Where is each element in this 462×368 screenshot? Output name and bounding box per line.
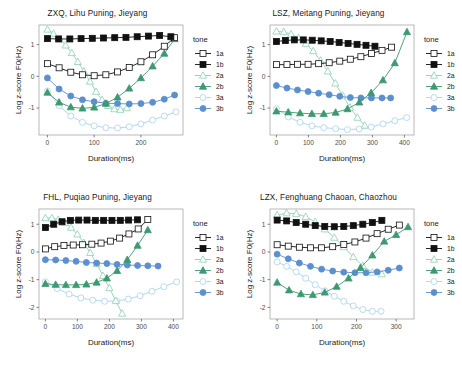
legend-marker-filled-square-icon <box>193 59 213 70</box>
legend-marker-open-circle-icon <box>424 92 444 103</box>
svg-text:400: 400 <box>168 323 179 330</box>
legend-marker-open-triangle-icon <box>193 70 213 81</box>
legend-item-1b[interactable]: 1b <box>193 59 224 70</box>
legend-marker-open-circle-icon <box>424 276 444 287</box>
legend-item-1b[interactable]: 1b <box>424 59 455 70</box>
svg-text:0: 0 <box>44 323 48 330</box>
legend-label: 1a <box>447 234 455 241</box>
svg-text:200: 200 <box>135 139 146 146</box>
legend-2: tone1a1b2a2b3a3b <box>424 35 455 114</box>
legend-title: tone <box>424 219 455 228</box>
legend-label: 2a <box>216 72 224 79</box>
legend-label: 3a <box>447 278 455 285</box>
svg-text:1: 1 <box>31 221 35 228</box>
legend-item-1b[interactable]: 1b <box>193 243 224 254</box>
svg-text:-1: -1 <box>29 104 35 111</box>
legend-marker-filled-circle-icon <box>424 103 444 114</box>
svg-text:1: 1 <box>262 221 266 228</box>
legend-marker-filled-square-icon <box>424 59 444 70</box>
svg-text:300: 300 <box>367 139 378 146</box>
figure-panel-grid: ZXQ, Lihu Puning, Jieyang 010020010-1 to… <box>0 0 462 368</box>
y-axis-title: Log z-score F0(Hz) <box>245 25 254 135</box>
legend-marker-open-triangle-icon <box>424 254 444 265</box>
svg-text:0: 0 <box>31 73 35 80</box>
legend-item-2a[interactable]: 2a <box>424 254 455 265</box>
legend-marker-filled-triangle-icon <box>424 81 444 92</box>
legend-item-2b[interactable]: 2b <box>424 81 455 92</box>
legend-item-2a[interactable]: 2a <box>424 70 455 81</box>
legend-item-2a[interactable]: 2a <box>193 254 224 265</box>
chart-panel-1: ZXQ, Lihu Puning, Jieyang 010020010-1 to… <box>0 0 231 184</box>
legend-marker-filled-triangle-icon <box>193 265 213 276</box>
legend-label: 3a <box>216 94 224 101</box>
legend-title: tone <box>193 35 224 44</box>
svg-text:0: 0 <box>275 139 279 146</box>
svg-text:0: 0 <box>262 73 266 80</box>
svg-text:200: 200 <box>335 139 346 146</box>
legend-marker-open-square-icon <box>424 232 444 243</box>
legend-label: 1b <box>447 61 455 68</box>
legend-label: 2a <box>447 72 455 79</box>
legend-title: tone <box>424 35 455 44</box>
legend-marker-open-square-icon <box>193 232 213 243</box>
svg-text:100: 100 <box>311 323 322 330</box>
legend-marker-open-circle-icon <box>193 92 213 103</box>
legend-item-3b[interactable]: 3b <box>424 287 455 298</box>
y-axis-title: Log z-score F0(Hz) <box>14 25 23 135</box>
legend-3: tone1a1b2a2b3a3b <box>193 219 224 298</box>
svg-text:100: 100 <box>303 139 314 146</box>
legend-item-2b[interactable]: 2b <box>193 81 224 92</box>
legend-1: tone1a1b2a2b3a3b <box>193 35 224 114</box>
legend-item-1b[interactable]: 1b <box>424 243 455 254</box>
chart-panel-4: LZX, Fenghuang Chaoan, Chaozhou 01002003… <box>231 184 462 368</box>
legend-marker-filled-triangle-icon <box>424 265 444 276</box>
legend-title: tone <box>193 219 224 228</box>
legend-item-1a[interactable]: 1a <box>193 48 224 59</box>
legend-item-1a[interactable]: 1a <box>424 232 455 243</box>
chart-panel-2: LSZ, Meitang Puning, Jieyang 01002003004… <box>231 0 462 184</box>
legend-item-1a[interactable]: 1a <box>193 232 224 243</box>
legend-item-3a[interactable]: 3a <box>424 276 455 287</box>
legend-item-2a[interactable]: 2a <box>193 70 224 81</box>
y-axis-title: Log z-score F0(Hz) <box>245 209 254 319</box>
legend-item-1a[interactable]: 1a <box>424 48 455 59</box>
legend-4: tone1a1b2a2b3a3b <box>424 219 455 298</box>
legend-marker-filled-square-icon <box>193 243 213 254</box>
legend-marker-open-triangle-icon <box>424 70 444 81</box>
legend-label: 2b <box>447 267 455 274</box>
svg-text:100: 100 <box>72 323 83 330</box>
legend-item-3a[interactable]: 3a <box>193 276 224 287</box>
svg-text:-1: -1 <box>260 276 266 283</box>
x-axis-title: Duration(ms) <box>270 338 414 347</box>
svg-text:300: 300 <box>136 323 147 330</box>
legend-marker-open-circle-icon <box>193 276 213 287</box>
x-axis-title: Duration(ms) <box>39 154 183 163</box>
legend-marker-open-triangle-icon <box>193 254 213 265</box>
legend-marker-open-square-icon <box>193 48 213 59</box>
legend-item-3a[interactable]: 3a <box>424 92 455 103</box>
x-axis-title: Duration(ms) <box>270 154 414 163</box>
legend-marker-filled-triangle-icon <box>193 81 213 92</box>
legend-label: 1a <box>216 234 224 241</box>
svg-text:0: 0 <box>275 323 279 330</box>
svg-text:-2: -2 <box>260 304 266 311</box>
legend-item-3b[interactable]: 3b <box>193 103 224 114</box>
chart-panel-3: FHL, Puqiao Puning, Jieyang 010020030040… <box>0 184 231 368</box>
legend-item-2b[interactable]: 2b <box>424 265 455 276</box>
legend-item-3b[interactable]: 3b <box>193 287 224 298</box>
legend-item-3b[interactable]: 3b <box>424 103 455 114</box>
legend-item-3a[interactable]: 3a <box>193 92 224 103</box>
svg-text:-2: -2 <box>29 304 35 311</box>
legend-marker-filled-circle-icon <box>193 103 213 114</box>
y-axis-title: Log z-score F0(Hz) <box>14 209 23 319</box>
legend-label: 1a <box>216 50 224 57</box>
svg-text:200: 200 <box>104 323 115 330</box>
legend-label: 1b <box>447 245 455 252</box>
legend-marker-filled-circle-icon <box>193 287 213 298</box>
svg-text:400: 400 <box>399 139 410 146</box>
svg-text:100: 100 <box>89 139 100 146</box>
legend-item-2b[interactable]: 2b <box>193 265 224 276</box>
svg-text:-1: -1 <box>260 104 266 111</box>
legend-label: 1b <box>216 61 224 68</box>
legend-label: 2b <box>216 267 224 274</box>
